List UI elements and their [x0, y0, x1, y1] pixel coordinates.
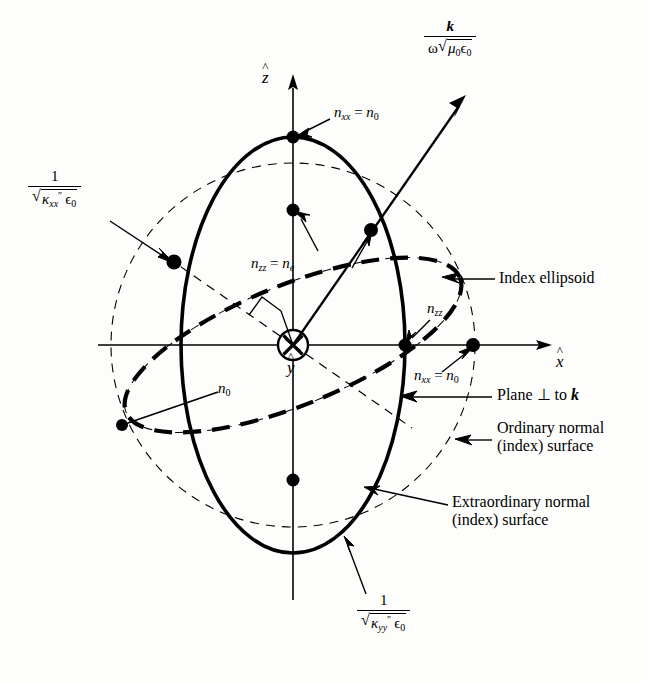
point-bottom-tilted [287, 474, 300, 487]
leader-extraordinary-normal [364, 486, 448, 505]
leader-plane-perp-k [400, 391, 492, 402]
leader-ordinary-normal [455, 435, 492, 445]
x-axis-label: ^x [556, 352, 564, 372]
leader-kappa-yy [344, 536, 366, 594]
annotation-nxx-right: nxx = n0 [414, 367, 459, 385]
y-axis-label: ^y [287, 358, 295, 378]
annotation-nzz-ne: nzz = ne [251, 255, 294, 273]
z-axis-label: ^z [262, 68, 269, 88]
annotation-nzz-right: nzz [427, 300, 442, 318]
leader-index-ellipsoid [442, 273, 495, 283]
point-left-tilted [167, 255, 182, 270]
kappa-yy-formula-label: 1 κyy″ ϵ0 [357, 592, 410, 634]
leader-kappa-xx [110, 221, 174, 263]
annotation-extraordinary-normal-surface: Extraordinary normal (index) surface [452, 493, 590, 530]
annotation-nxx-top: nxx = n0 [334, 104, 379, 122]
annotation-n0: n0 [218, 380, 231, 398]
leader-n0-lower-left [122, 392, 218, 425]
z-axis-arrowhead [288, 74, 298, 90]
k-over-omega-label: k ω μ0ϵ0 [424, 18, 476, 59]
diagram-canvas [0, 0, 647, 682]
annotation-ordinary-normal-surface: Ordinary normal (index) surface [497, 419, 604, 456]
optics-index-surface-figure: k ω μ0ϵ0 ^z ^x ^y nxx = n0 1 κxx″ ϵ0 [0, 0, 647, 682]
leader-nzz-axis [405, 320, 430, 345]
annotation-plane-perp-k: Plane ⊥ to k [497, 386, 579, 404]
leader-nzz-ne [294, 211, 318, 251]
kappa-xx-formula-label: 1 κxx″ ϵ0 [28, 168, 81, 210]
leader-nxx-top [295, 119, 330, 137]
annotation-index-ellipsoid: Index ellipsoid [499, 269, 595, 287]
